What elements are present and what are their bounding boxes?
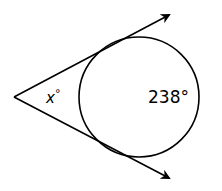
diagram: x° 238° bbox=[0, 0, 222, 191]
arc-measure-label: 238° bbox=[148, 87, 189, 107]
lower-tangent-ray bbox=[14, 97, 169, 178]
upper-tangent-ray bbox=[14, 15, 169, 97]
vertex-angle-label: x° bbox=[45, 87, 60, 107]
